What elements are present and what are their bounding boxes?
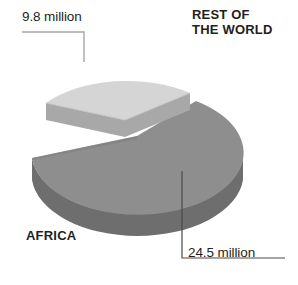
rest-of-world-name-line1: REST OF: [192, 8, 273, 23]
africa-name-label: AFRICA: [26, 229, 76, 244]
africa-value-label: 24.5 million: [188, 245, 255, 260]
pie-chart: 9.8 million REST OF THE WORLD AFRICA 24.…: [0, 0, 298, 285]
rest-of-world-value-label: 9.8 million: [22, 9, 82, 24]
leader-line-rest-of-world: [22, 32, 84, 62]
rest-of-world-value-text: 9.8 million: [22, 9, 82, 24]
africa-value-text: 24.5 million: [188, 245, 255, 260]
rest-of-world-name-line2: THE WORLD: [192, 23, 273, 38]
africa-name-text: AFRICA: [26, 228, 76, 243]
rest-of-world-name-label: REST OF THE WORLD: [192, 8, 273, 37]
